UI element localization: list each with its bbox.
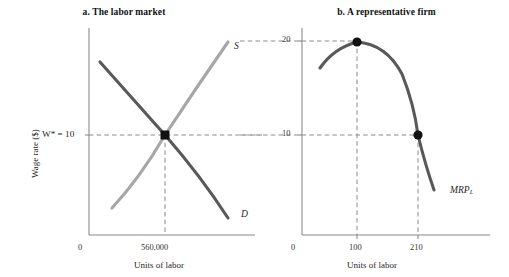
mrp-curve-label-subscript: L (470, 188, 474, 195)
mrp-curve-label: MRPL (450, 184, 473, 195)
panel-b-y-tick-label-10: 10 (282, 129, 290, 138)
panel-a-x-axis-label: Units of labor (134, 260, 184, 270)
panel-a-x-tick-label: 560,000 (141, 243, 168, 252)
panel-representative-firm: b. A representative firm 20 10 0 100 (262, 0, 509, 277)
figure-labor-market: a. The labor market Wage rate ($) W* = 1… (0, 0, 509, 277)
panel-b-origin-label: 0 (291, 243, 295, 252)
supply-curve-label: S (234, 40, 239, 51)
demand-curve (100, 62, 228, 218)
panel-b-x-axis-label: Units of labor (347, 260, 397, 270)
panel-a-origin-label: 0 (78, 243, 82, 252)
panel-b-x-tick-label-100: 100 (349, 243, 362, 252)
demand-curve-label: D (241, 208, 248, 219)
mrp-curve-label-text: MRP (450, 184, 470, 195)
mrp-max-marker (352, 37, 361, 46)
equilibrium-wage-label: W* = 10 (42, 129, 74, 139)
mrp-curve (320, 42, 434, 190)
mrp-wage-marker (413, 130, 422, 139)
supply-curve (112, 42, 228, 208)
panel-labor-market: a. The labor market Wage rate ($) W* = 1… (0, 0, 262, 277)
panel-a-y-axis-label: Wage rate ($) (30, 129, 40, 178)
panel-b-y-tick-label-20: 20 (282, 35, 290, 44)
panel-b-x-tick-label-210: 210 (410, 243, 423, 252)
equilibrium-marker (161, 131, 170, 140)
panel-b-plot (262, 0, 509, 277)
